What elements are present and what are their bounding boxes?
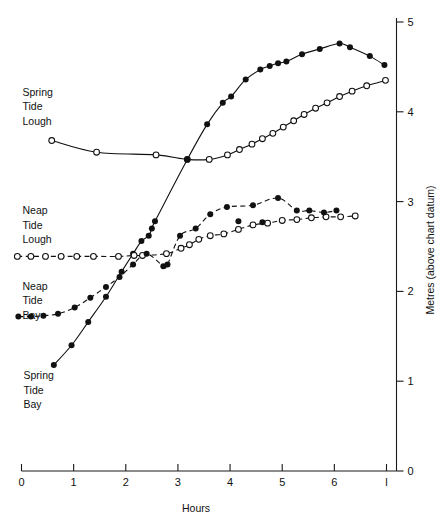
x-tick-label: 0: [18, 476, 24, 488]
x-tick-label: 6: [331, 476, 337, 488]
data-point-filled: [85, 319, 91, 325]
data-point-filled: [347, 44, 353, 50]
data-point-filled: [367, 53, 373, 59]
data-point-filled: [165, 261, 171, 267]
data-point-open: [225, 152, 231, 158]
data-point-open: [116, 253, 122, 259]
markers-layer: [14, 41, 388, 368]
data-point-filled: [138, 238, 144, 244]
data-point-open: [153, 152, 159, 158]
data-point-filled: [243, 76, 249, 82]
x-tick-label: l: [385, 476, 387, 488]
data-point-filled: [117, 274, 123, 280]
series-curve-neap-tide-bay: [18, 198, 336, 317]
y-tick-label: 5: [408, 16, 414, 28]
data-point-filled: [333, 208, 339, 214]
data-point-filled: [294, 208, 300, 214]
data-point-open: [74, 253, 80, 259]
data-point-filled: [275, 195, 281, 201]
data-point-open: [94, 149, 100, 155]
axes-layer: 0123456l012345: [18, 16, 413, 488]
chart-canvas: 0123456l012345 SpringTideLoughSpringTide…: [0, 0, 448, 520]
x-tick-label: 5: [279, 476, 285, 488]
data-point-filled: [250, 202, 256, 208]
y-tick-label: 4: [408, 106, 414, 118]
data-point-open: [236, 227, 242, 233]
data-point-open: [43, 253, 49, 259]
series-markers-neap-tide-lough: [14, 213, 358, 259]
data-point-open: [14, 253, 20, 259]
data-point-filled: [337, 41, 343, 47]
y-tick-label: 1: [408, 375, 414, 387]
data-point-open: [178, 245, 184, 251]
tide-chart: 0123456l012345 SpringTideLoughSpringTide…: [0, 0, 448, 520]
data-point-filled: [317, 46, 323, 52]
data-point-filled: [228, 94, 234, 100]
data-point-filled: [207, 211, 213, 217]
data-point-filled: [381, 62, 387, 68]
series-curve-spring-tide-bay: [54, 44, 385, 366]
x-tick-label: 2: [123, 476, 129, 488]
data-point-filled: [220, 100, 226, 106]
data-point-filled: [40, 313, 46, 319]
data-point-open: [383, 77, 389, 83]
data-point-open: [207, 233, 213, 239]
data-point-open: [196, 236, 202, 242]
data-point-filled: [283, 59, 289, 65]
series-label-spring-tide-lough: SpringTideLough: [23, 86, 54, 127]
data-point-open: [221, 231, 227, 237]
data-point-filled: [87, 295, 93, 301]
series-markers-spring-tide-bay: [51, 41, 388, 368]
data-point-filled: [119, 269, 125, 275]
data-point-filled: [184, 156, 190, 162]
data-point-filled: [103, 294, 109, 300]
data-point-filled: [130, 261, 136, 267]
series-curve-neap-tide-lough: [17, 216, 355, 256]
data-point-filled: [69, 342, 75, 348]
data-point-open: [364, 83, 370, 89]
data-point-filled: [152, 218, 158, 224]
data-point-open: [131, 253, 137, 259]
data-point-filled: [149, 226, 155, 232]
y-tick-label: 3: [408, 196, 414, 208]
x-tick-label: 1: [71, 476, 77, 488]
data-point-open: [28, 253, 34, 259]
data-point-open: [301, 112, 307, 118]
data-point-filled: [224, 204, 230, 210]
data-point-filled: [299, 51, 305, 57]
data-point-filled: [204, 121, 210, 127]
data-point-filled: [257, 67, 263, 73]
data-point-filled: [103, 284, 109, 290]
data-point-filled: [306, 208, 312, 214]
data-point-open: [294, 217, 300, 223]
data-point-filled: [144, 251, 150, 257]
data-point-filled: [15, 314, 21, 320]
data-point-open: [270, 130, 276, 136]
data-point-open: [249, 141, 255, 147]
data-point-open: [260, 136, 266, 142]
data-point-filled: [146, 233, 152, 239]
data-point-open: [49, 138, 55, 144]
data-point-filled: [177, 233, 183, 239]
data-point-filled: [259, 219, 265, 225]
data-point-open: [309, 215, 315, 221]
curves-layer: [17, 44, 385, 366]
data-point-open: [349, 88, 355, 94]
data-point-open: [279, 218, 285, 224]
data-point-open: [280, 124, 286, 130]
series-label-neap-tide-lough: NeapTideLough: [23, 204, 52, 245]
data-point-open: [206, 156, 212, 162]
y-axis-title: Metres (above chart datum): [424, 186, 436, 315]
data-point-filled: [275, 60, 281, 66]
data-point-open: [58, 253, 64, 259]
x-tick-label: 3: [175, 476, 181, 488]
data-point-open: [338, 214, 344, 220]
data-point-filled: [55, 311, 61, 317]
data-point-open: [237, 147, 243, 153]
data-point-filled: [193, 226, 199, 232]
data-point-filled: [321, 209, 327, 215]
series-curve-spring-tide-lough: [52, 80, 386, 160]
data-point-open: [91, 253, 97, 259]
data-point-open: [352, 213, 358, 219]
series-markers-spring-tide-lough: [49, 77, 389, 162]
